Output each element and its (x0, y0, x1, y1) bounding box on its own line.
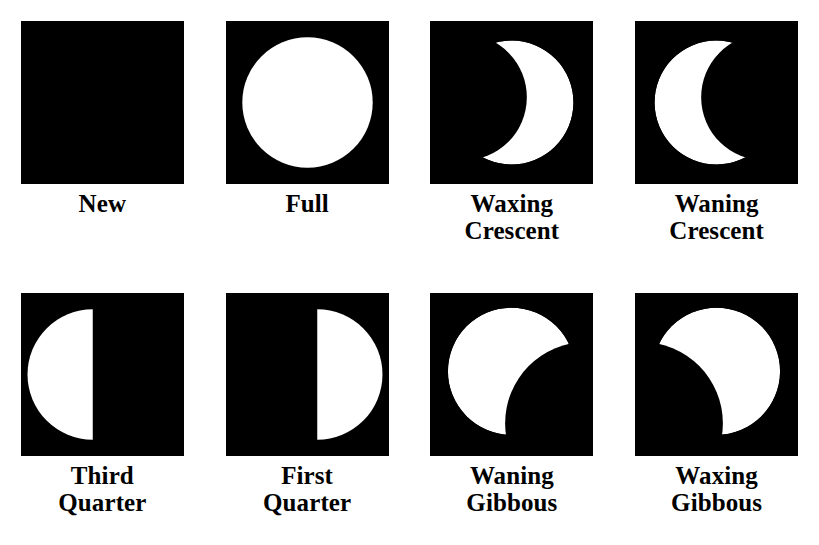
moon-phase-art-waxing-crescent (430, 21, 593, 184)
moon-phase-art-full (226, 21, 389, 184)
moon-phase-cell-third-quarter: Third Quarter (0, 272, 205, 545)
moon-phase-label-waning-gibbous: Waning Gibbous (466, 462, 557, 516)
moon-phase-cell-waning-crescent: Waning Crescent (614, 0, 819, 272)
moon-phase-label-new: New (79, 190, 127, 217)
moon-disc (226, 21, 389, 184)
moon-phase-label-waxing-crescent: Waxing Crescent (465, 190, 560, 244)
moon-disc (21, 293, 184, 456)
moon-phase-cell-waning-gibbous: Waning Gibbous (410, 272, 615, 545)
moon-phase-cell-first-quarter: First Quarter (205, 272, 410, 545)
moon-phase-cell-new: New (0, 0, 205, 272)
moon-disc (21, 21, 184, 184)
moon-disc (430, 293, 593, 456)
moon-phase-cell-waxing-crescent: Waxing Crescent (410, 0, 615, 272)
moon-disc (635, 21, 798, 184)
moon-phase-art-new (21, 21, 184, 184)
moon-phase-cell-full: Full (205, 0, 410, 272)
moon-phase-label-full: Full (285, 190, 328, 217)
moon-phase-label-waning-crescent: Waning Crescent (669, 190, 764, 244)
moon-phase-label-first-quarter: First Quarter (263, 462, 351, 516)
moon-phase-art-waxing-gibbous (635, 293, 798, 456)
moon-phase-label-waxing-gibbous: Waxing Gibbous (671, 462, 762, 516)
moon-phase-art-first-quarter (226, 293, 389, 456)
moon-phase-label-third-quarter: Third Quarter (58, 462, 146, 516)
moon-phase-art-third-quarter (21, 293, 184, 456)
moon-disc (430, 21, 593, 184)
moon-disc (226, 293, 389, 456)
moon-phase-grid: NewFullWaxing CrescentWaning CrescentThi… (0, 0, 819, 545)
moon-phase-art-waning-gibbous (430, 293, 593, 456)
moon-phase-cell-waxing-gibbous: Waxing Gibbous (614, 272, 819, 545)
moon-disc (635, 293, 798, 456)
moon-phase-art-waning-crescent (635, 21, 798, 184)
